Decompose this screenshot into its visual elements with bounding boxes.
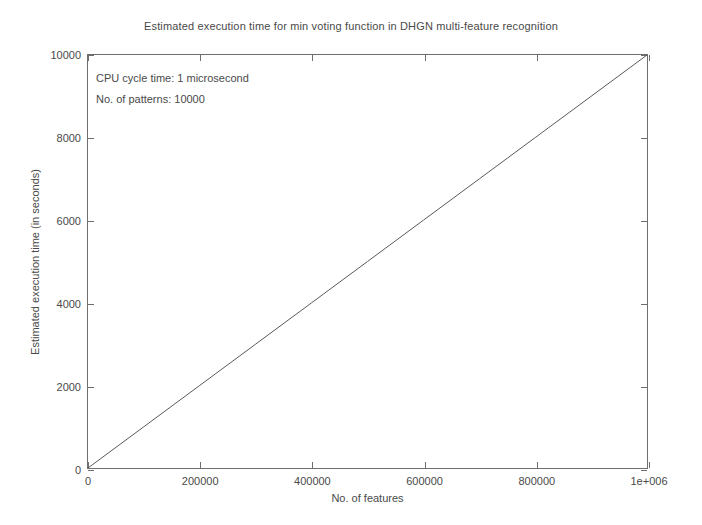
y-tick-0 xyxy=(88,470,94,471)
x-tick-1e+006 xyxy=(649,55,650,61)
x-tick-label-600000: 600000 xyxy=(406,475,443,487)
series-line-estimated-execution-time xyxy=(88,55,647,468)
plot-area: 0200040006000800010000020000040000060000… xyxy=(87,54,648,469)
y-axis-title-text: Estimated execution time (in seconds) xyxy=(29,169,41,355)
x-tick-label-400000: 400000 xyxy=(294,475,331,487)
y-tick-label-2000: 2000 xyxy=(57,381,81,393)
series-line-layer xyxy=(88,55,647,468)
chart-figure: Estimated execution time for min voting … xyxy=(0,0,702,525)
x-tick-label-0: 0 xyxy=(85,475,91,487)
y-tick-label-0: 0 xyxy=(75,464,81,476)
x-tick-label-800000: 800000 xyxy=(518,475,555,487)
y-axis-title: Estimated execution time (in seconds) xyxy=(26,54,44,469)
x-tick-1e+006 xyxy=(649,462,650,468)
x-tick-label-200000: 200000 xyxy=(182,475,219,487)
annotation-line-1: CPU cycle time: 1 microsecond xyxy=(96,68,249,89)
y-tick-label-4000: 4000 xyxy=(57,298,81,310)
y-tick-label-10000: 10000 xyxy=(50,49,81,61)
chart-title: Estimated execution time for min voting … xyxy=(0,20,702,32)
x-axis-title: No. of features xyxy=(87,492,648,504)
y-tick-label-6000: 6000 xyxy=(57,215,81,227)
y-tick-0 xyxy=(641,470,647,471)
x-tick-label-1e+006: 1e+006 xyxy=(630,475,667,487)
annotation-block: CPU cycle time: 1 microsecondNo. of patt… xyxy=(96,68,249,110)
annotation-line-2: No. of patterns: 10000 xyxy=(96,89,249,110)
y-tick-label-8000: 8000 xyxy=(57,132,81,144)
